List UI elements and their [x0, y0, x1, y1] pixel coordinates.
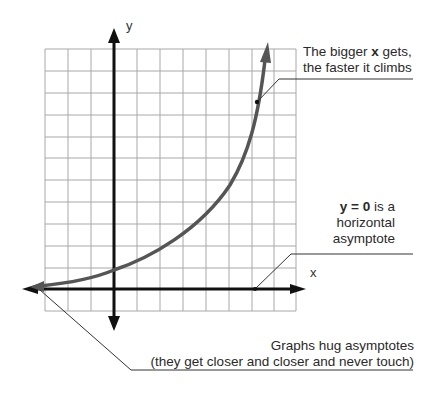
y-axis-up-arrow-icon: [108, 28, 120, 43]
y-axis-down-arrow-icon: [108, 316, 120, 331]
annotation-text: (they get closer and closer and never to…: [151, 354, 414, 370]
x-axis: [22, 284, 306, 294]
annotation-text: horizontal: [333, 215, 395, 231]
annotation-text: asymptote: [333, 231, 395, 247]
x-axis-label: x: [310, 265, 317, 280]
annotation-text: gets,: [379, 44, 412, 59]
annotation-text: Graphs hug asymptotes: [151, 338, 414, 354]
leader-dot: [255, 100, 259, 104]
annotation-bold: x: [371, 44, 379, 59]
annotation-bold: y = 0: [340, 199, 370, 214]
annotation-text: the faster it climbs: [303, 60, 412, 76]
grid: [45, 49, 296, 311]
annotation-bottom: Graphs hug asymptotes (they get closer a…: [151, 338, 414, 370]
exponential-curve: [30, 42, 271, 292]
x-axis-right-arrow-icon: [290, 284, 306, 294]
annotation-middle: y = 0 is a horizontal asymptote: [333, 199, 395, 247]
curve-up-arrow-icon: [260, 42, 271, 63]
leader-dot: [253, 287, 257, 291]
annotation-top: The bigger x gets, the faster it climbs: [303, 44, 412, 76]
y-axis-label: y: [126, 18, 133, 33]
annotation-text: is a: [370, 199, 395, 214]
annotation-text: The bigger: [303, 44, 371, 59]
